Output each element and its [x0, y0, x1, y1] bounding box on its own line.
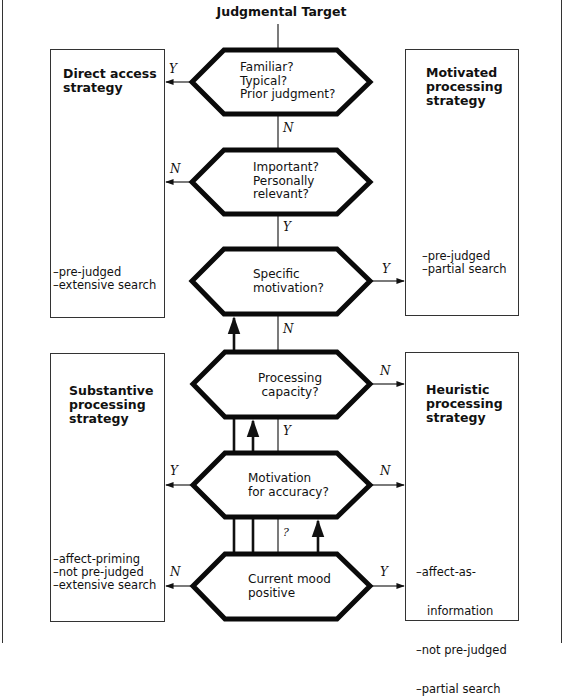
- edge-label-no: N: [283, 322, 294, 336]
- edge-label-yes: Y: [283, 220, 291, 234]
- decision-text: Specific motivation?: [253, 268, 324, 295]
- edge-label-no: N: [283, 121, 294, 135]
- decision-text: Motivation for accuracy?: [248, 472, 329, 499]
- edge-label-no: N: [380, 464, 391, 478]
- edge-label-no: N: [170, 162, 181, 176]
- edge-label-yes: Y: [382, 262, 390, 276]
- decision-text: Important? Personally relevant?: [253, 161, 319, 202]
- edge-label-no: N: [380, 364, 391, 378]
- edge-label-uncertain: ?: [283, 526, 289, 539]
- edge-label-yes: Y: [380, 565, 388, 579]
- decision-text: Current mood positive: [248, 573, 331, 600]
- edge-label-no: N: [170, 565, 181, 579]
- edge-label-yes: Y: [283, 424, 291, 438]
- edge-label-yes: Y: [169, 62, 177, 76]
- edge-label-yes: Y: [170, 464, 178, 478]
- decision-text: Familiar? Typical? Prior judgment?: [240, 61, 335, 102]
- decision-text: Processing capacity?: [258, 372, 322, 399]
